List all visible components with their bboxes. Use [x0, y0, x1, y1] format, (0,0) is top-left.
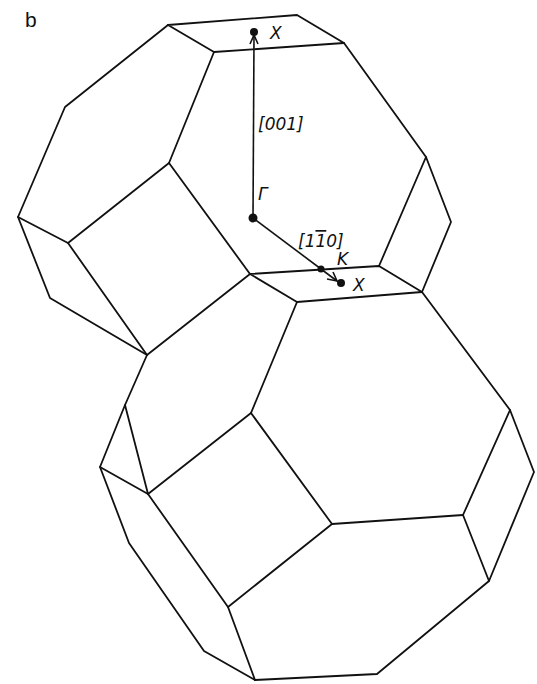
- gamma-point: [249, 214, 258, 223]
- bar-one: 1: [315, 231, 326, 251]
- x-side-label: X: [352, 275, 365, 295]
- vector-001-label: [001]: [258, 114, 304, 134]
- k-label: K: [337, 249, 350, 269]
- panel-label: b: [25, 8, 37, 31]
- vector-1-10-label: [110]: [298, 231, 344, 251]
- x-top-label: X: [269, 23, 282, 43]
- brillouin-zone-diagram: b [001] [110]: [0, 0, 537, 684]
- gamma-label: Γ: [258, 184, 269, 204]
- k-point: [318, 266, 325, 273]
- high-symmetry-points: Γ X K X: [249, 23, 366, 295]
- lower-brillouin-zone: [100, 266, 534, 680]
- x-point-top: [250, 28, 258, 36]
- x-point-side: [337, 279, 345, 287]
- upper-brillouin-zone: [18, 15, 451, 355]
